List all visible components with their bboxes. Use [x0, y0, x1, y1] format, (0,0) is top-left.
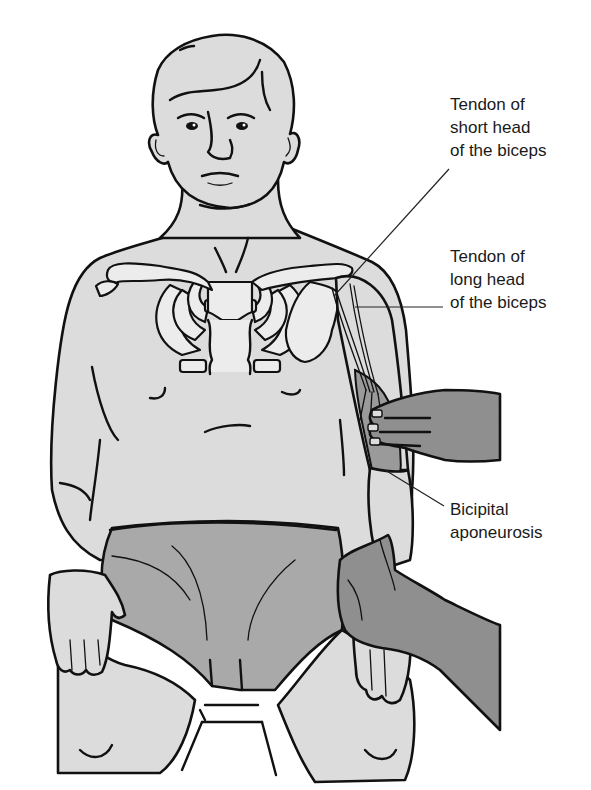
label-tendon-short-head: Tendon of short head of the biceps — [450, 93, 546, 162]
label-line: of the biceps — [450, 291, 546, 314]
label-bicipital-aponeurosis: Bicipital aponeurosis — [450, 498, 543, 544]
label-line: aponeurosis — [450, 521, 543, 544]
head-neck — [149, 35, 300, 238]
leader-short-head — [334, 169, 449, 296]
label-line: Tendon of — [450, 245, 546, 268]
label-tendon-long-head: Tendon of long head of the biceps — [450, 245, 546, 314]
label-line: Tendon of — [450, 93, 546, 116]
label-line: Bicipital — [450, 498, 543, 521]
label-line: of the biceps — [450, 139, 546, 162]
subject-left-hand — [48, 570, 125, 674]
label-line: short head — [450, 116, 546, 139]
stool — [182, 705, 276, 775]
shorts — [102, 521, 344, 690]
label-line: long head — [450, 268, 546, 291]
